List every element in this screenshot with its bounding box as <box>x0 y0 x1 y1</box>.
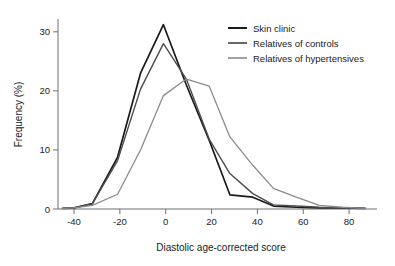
x-tick-label: 80 <box>344 216 355 227</box>
x-tick-label: 0 <box>163 216 168 227</box>
legend-group: Skin clinicRelatives of controlsRelative… <box>228 23 364 64</box>
x-tick-label: 20 <box>206 216 217 227</box>
x-tick-label: 60 <box>298 216 309 227</box>
series-line-relatives-of-controls <box>63 44 366 209</box>
axis-titles-group: Diastolic age-corrected scoreFrequency (… <box>13 82 286 253</box>
x-axis-title: Diastolic age-corrected score <box>156 242 286 253</box>
y-tick-label: 10 <box>39 144 50 155</box>
legend-label-0: Skin clinic <box>253 23 295 34</box>
frequency-polygon-chart: 0102030-40-20020406080 Skin clinicRelati… <box>0 0 395 266</box>
x-tick-label: 40 <box>252 216 263 227</box>
series-line-relatives-of-hypertensives <box>63 79 366 208</box>
y-tick-label: 20 <box>39 85 50 96</box>
axes-group: 0102030-40-20020406080 <box>39 19 377 227</box>
x-tick-label: -40 <box>67 216 81 227</box>
y-tick-label: 0 <box>45 204 50 215</box>
legend-label-1: Relatives of controls <box>253 38 339 49</box>
y-axis-title: Frequency (%) <box>13 82 24 148</box>
legend-label-2: Relatives of hypertensives <box>253 53 364 64</box>
x-tick-label: -20 <box>113 216 127 227</box>
y-tick-label: 30 <box>39 26 50 37</box>
chart-container: 0102030-40-20020406080 Skin clinicRelati… <box>0 0 395 266</box>
